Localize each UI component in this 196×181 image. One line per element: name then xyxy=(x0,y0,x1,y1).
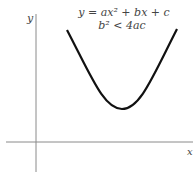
equation-line-1: y = ax² + bx + c xyxy=(77,6,169,19)
parabola-curve xyxy=(67,29,177,109)
parabola-diagram: y x y = ax² + bx + c b² < 4ac xyxy=(0,0,196,181)
x-axis-label: x xyxy=(187,146,193,157)
y-axis-label: y xyxy=(26,12,34,25)
equation-line-2: b² < 4ac xyxy=(98,19,145,32)
